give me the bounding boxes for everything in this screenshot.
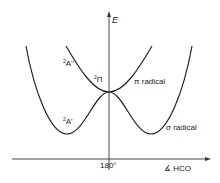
x-axis-label: ∡ HCO — [164, 165, 191, 173]
x-axis-arrow-icon — [205, 157, 211, 161]
state-label-2A-double-prime: 2A'' — [63, 60, 74, 68]
y-axis-label: E — [112, 16, 118, 25]
x-tick-label-180: 180° — [100, 162, 117, 170]
y-axis-arrow-icon — [107, 11, 111, 17]
sigma-radical-label: σ radical — [166, 124, 197, 132]
potential-energy-diagram — [0, 0, 220, 183]
state-label-2A-prime: 2A' — [63, 118, 73, 126]
state-label-2Pi: 2Π — [94, 76, 103, 84]
pi-radical-label: π radical — [134, 78, 165, 86]
